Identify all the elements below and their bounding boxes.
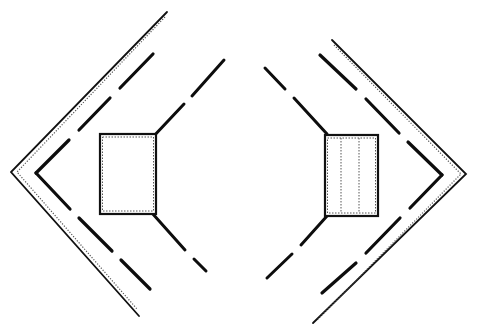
right-connector-bottom [267,216,327,278]
right-chevron-group [265,40,466,323]
left-connector-bottom [152,213,206,271]
left-panel [100,134,156,214]
right-connector-top [265,68,327,134]
right-panel [325,135,378,216]
left-connector-top [152,60,224,138]
diagram-canvas [0,0,478,331]
left-chevron-group [11,12,224,316]
